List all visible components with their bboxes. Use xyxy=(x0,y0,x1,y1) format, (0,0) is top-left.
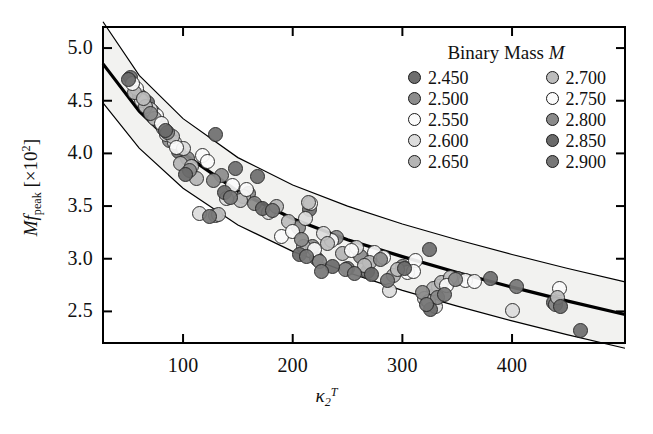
y-tick-label: 4.5 xyxy=(37,90,93,110)
y-axis-title-times: ×10 xyxy=(20,151,41,181)
data-point-marker xyxy=(178,167,193,182)
legend-title: Binary Mass M xyxy=(398,42,614,64)
x-tick-label: 300 xyxy=(367,355,437,375)
x-axis-title-kappa: κ xyxy=(316,385,325,406)
legend-title-symbol: M xyxy=(549,42,565,63)
legend-entry[interactable]: 2.450 xyxy=(408,67,469,88)
data-point-marker xyxy=(223,190,238,205)
data-point-marker xyxy=(301,195,316,210)
legend-entry[interactable]: 2.900 xyxy=(546,151,607,172)
x-tick-label: 200 xyxy=(258,355,328,375)
y-tick-label: 4.0 xyxy=(37,142,93,162)
y-axis-title-sub: peak xyxy=(30,192,44,215)
legend-entry[interactable]: 2.750 xyxy=(546,88,607,109)
data-point-marker xyxy=(422,242,437,257)
y-tick-label: 3.0 xyxy=(37,248,93,268)
legend-swatch-circle-icon xyxy=(408,71,421,84)
data-point-marker xyxy=(380,273,395,288)
data-point-marker xyxy=(158,123,173,138)
x-tick-label: 100 xyxy=(148,355,218,375)
legend-swatch-circle-icon xyxy=(546,71,559,84)
data-point-marker xyxy=(397,261,412,276)
data-point-marker xyxy=(505,303,520,318)
y-axis-title-f: f xyxy=(20,215,41,220)
legend-swatch-circle-icon xyxy=(408,92,421,105)
data-point-marker xyxy=(448,272,463,287)
data-point-marker xyxy=(483,271,498,286)
legend-label: 2.800 xyxy=(566,111,607,129)
y-axis-title-m: M xyxy=(20,220,41,236)
legend-entry[interactable]: 2.500 xyxy=(408,88,469,109)
legend-label: 2.750 xyxy=(566,90,607,108)
data-point-marker xyxy=(419,297,434,312)
legend-label: 2.850 xyxy=(566,132,607,150)
legend-label: 2.600 xyxy=(428,132,469,150)
legend-entry[interactable]: 2.550 xyxy=(408,109,469,130)
x-axis-title-sup: T xyxy=(331,385,338,399)
y-axis-title-bracket-open: [ xyxy=(20,181,41,187)
y-axis-title: Mfpeak [×102] xyxy=(19,93,44,283)
data-point-marker xyxy=(573,323,588,338)
y-tick-label: 5.0 xyxy=(37,37,93,57)
data-point-marker xyxy=(121,72,136,87)
legend-swatch-circle-icon xyxy=(546,134,559,147)
scatter-plot-figure: 2.53.03.54.04.55.0 100200300400 Mfpeak [… xyxy=(0,0,653,434)
legend-title-text: Binary Mass xyxy=(447,42,548,63)
legend-entry[interactable]: 2.650 xyxy=(408,151,469,172)
legend-column-1: 2.4502.5002.5502.6002.650 xyxy=(408,67,469,172)
legend-swatch-circle-icon xyxy=(408,134,421,147)
legend-entry[interactable]: 2.600 xyxy=(408,130,469,151)
legend-swatch-circle-icon xyxy=(546,155,559,168)
legend-swatch-circle-icon xyxy=(408,155,421,168)
legend-label: 2.900 xyxy=(566,153,607,171)
legend-label: 2.450 xyxy=(428,69,469,87)
y-tick-label: 2.5 xyxy=(37,300,93,320)
x-tick-label: 400 xyxy=(477,355,547,375)
data-point-marker xyxy=(347,266,362,281)
data-point-marker xyxy=(509,279,524,294)
legend-label: 2.650 xyxy=(428,153,469,171)
legend-columns: 2.4502.5002.5502.6002.6502.7002.7502.800… xyxy=(398,67,614,172)
legend-label: 2.500 xyxy=(428,90,469,108)
x-axis-title: κ2T xyxy=(0,385,653,410)
y-tick-label: 3.5 xyxy=(37,195,93,215)
legend-label: 2.550 xyxy=(428,111,469,129)
legend-swatch-circle-icon xyxy=(546,92,559,105)
data-point-marker xyxy=(143,106,158,121)
legend-entry[interactable]: 2.850 xyxy=(546,130,607,151)
data-point-marker xyxy=(228,161,243,176)
legend-entry[interactable]: 2.700 xyxy=(546,67,607,88)
data-point-marker xyxy=(202,209,217,224)
data-point-marker xyxy=(239,182,254,197)
data-point-marker xyxy=(169,140,184,155)
data-point-marker xyxy=(200,154,215,169)
data-point-marker xyxy=(437,287,452,302)
legend-swatch-circle-icon xyxy=(408,113,421,126)
data-point-marker xyxy=(314,264,329,279)
data-point-marker xyxy=(553,299,568,314)
legend: Binary Mass M 2.4502.5002.5502.6002.6502… xyxy=(398,42,614,172)
y-axis-title-exponent: 2 xyxy=(19,145,33,151)
legend-entry[interactable]: 2.800 xyxy=(546,109,607,130)
legend-label: 2.700 xyxy=(566,69,607,87)
legend-column-2: 2.7002.7502.8002.8502.900 xyxy=(546,67,607,172)
legend-swatch-circle-icon xyxy=(546,113,559,126)
y-axis-title-bracket-close: ] xyxy=(20,139,41,145)
